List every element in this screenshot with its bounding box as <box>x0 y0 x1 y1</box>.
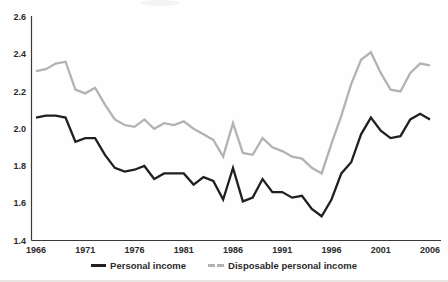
legend-label-disposable-personal-income: Disposable personal income <box>228 260 357 271</box>
personal-income-line-swatch-icon <box>91 264 106 266</box>
disposable-personal-income-line-swatch-icon <box>208 264 224 266</box>
x-tick-label: 1966 <box>26 245 46 255</box>
x-tick-label: 1986 <box>223 245 243 255</box>
figure: 1.41.61.82.02.22.42.6 196619711976198119… <box>0 0 448 282</box>
legend-label-personal-income: Personal income <box>110 260 186 271</box>
y-tick-label: 1.6 <box>13 198 26 208</box>
y-tick-label: 1.8 <box>13 161 26 171</box>
chart-legend: Personal income Disposable personal inco… <box>0 260 448 271</box>
y-tick-label: 1.4 <box>13 236 26 246</box>
series-line-disposable-personal-income <box>36 52 430 173</box>
series-lines <box>36 52 430 216</box>
x-tick-label: 1991 <box>272 245 292 255</box>
y-axis: 1.41.61.82.02.22.42.6 <box>13 12 31 246</box>
legend-item-disposable-personal-income: Disposable personal income <box>208 260 357 271</box>
y-tick-label: 2.2 <box>13 87 26 97</box>
x-tick-label: 1971 <box>75 245 95 255</box>
y-tick-label: 2.6 <box>13 12 26 22</box>
x-tick-label: 2001 <box>371 245 391 255</box>
x-tick-label: 1996 <box>321 245 341 255</box>
x-tick-label: 1981 <box>174 245 194 255</box>
y-tick-label: 2.0 <box>13 124 26 134</box>
x-tick-label: 2006 <box>420 245 440 255</box>
chart-canvas: 1.41.61.82.02.22.42.6 196619711976198119… <box>0 0 448 282</box>
series-line-personal-income <box>36 114 430 216</box>
y-tick-label: 2.4 <box>13 49 26 59</box>
x-axis: 196619711976198119861991199620012006 <box>26 241 441 256</box>
legend-item-personal-income: Personal income <box>91 260 186 271</box>
x-tick-label: 1976 <box>124 245 144 255</box>
